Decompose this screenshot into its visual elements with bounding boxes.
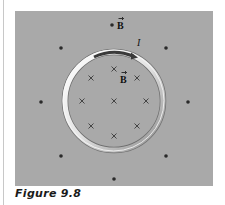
dot-icon — [110, 23, 114, 27]
label-b-outside: B — [117, 17, 124, 31]
label-current: I — [136, 37, 141, 48]
dot-icon — [59, 154, 63, 158]
dot-icon — [112, 177, 116, 181]
svg-text:B: B — [117, 20, 124, 31]
label-b-inside: B — [120, 71, 127, 85]
field-crosses — [80, 67, 149, 139]
dot-icon — [186, 100, 190, 104]
svg-text:B: B — [120, 74, 127, 85]
dot-icon — [39, 100, 43, 104]
dot-icon — [164, 46, 168, 50]
dot-icon — [59, 46, 63, 50]
figure-caption: Figure 9.8 — [15, 187, 81, 200]
dot-icon — [164, 154, 168, 158]
figure-illustration: B B I — [0, 0, 225, 205]
